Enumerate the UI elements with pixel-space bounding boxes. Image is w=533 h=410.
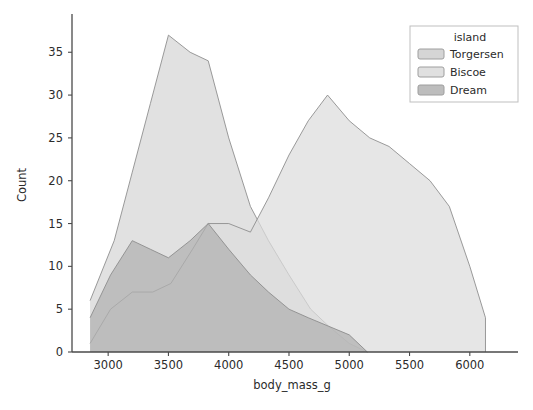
y-tick-label: 30	[48, 88, 63, 102]
y-tick-label: 0	[56, 345, 63, 359]
x-tick-label: 4000	[214, 358, 243, 372]
x-tick-label: 5500	[395, 358, 424, 372]
x-tick-label: 5000	[335, 358, 364, 372]
legend-box[interactable]: islandTorgersenBiscoeDream	[410, 26, 518, 102]
legend-item-torgersen[interactable]: Torgersen	[418, 48, 504, 61]
x-tick-label: 3500	[154, 358, 183, 372]
x-tick-label: 4500	[274, 358, 303, 372]
chart-figure: 3000350040004500500055006000051015202530…	[0, 0, 533, 410]
legend-label: Biscoe	[450, 66, 486, 79]
y-tick-label: 10	[48, 259, 63, 273]
legend-swatch	[418, 67, 444, 77]
legend-label: Dream	[450, 84, 487, 97]
legend-swatch	[418, 85, 444, 95]
y-tick-label: 35	[48, 45, 63, 59]
legend-label: Torgersen	[449, 48, 504, 61]
y-tick-label: 20	[48, 174, 63, 188]
area-chart-svg: 3000350040004500500055006000051015202530…	[0, 0, 533, 410]
x-tick-label: 3000	[94, 358, 123, 372]
x-tick-label: 6000	[455, 358, 484, 372]
legend-item-dream[interactable]: Dream	[418, 84, 487, 97]
y-axis-title: Count	[15, 167, 29, 202]
y-tick-label: 5	[56, 302, 63, 316]
x-axis-title: body_mass_g	[253, 378, 330, 392]
legend-item-biscoe[interactable]: Biscoe	[418, 66, 486, 79]
legend-swatch	[418, 49, 444, 59]
y-tick-label: 25	[48, 131, 63, 145]
legend-title: island	[454, 31, 487, 44]
y-tick-label: 15	[48, 217, 63, 231]
